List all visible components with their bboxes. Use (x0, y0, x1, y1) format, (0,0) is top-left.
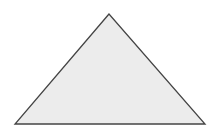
triangle-shape (15, 14, 205, 124)
triangle-diagram (0, 0, 218, 133)
diagram-canvas (0, 0, 218, 133)
